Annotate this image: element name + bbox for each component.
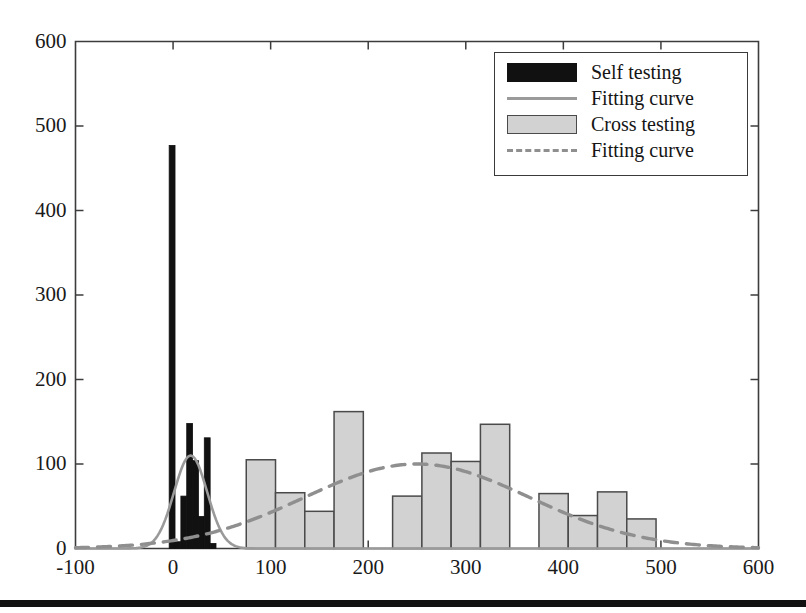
legend-label: Fitting curve bbox=[591, 86, 694, 110]
legend-label: Fitting curve bbox=[591, 138, 694, 162]
legend-label: Self testing bbox=[591, 60, 682, 84]
x-tick-label: 0 bbox=[133, 555, 213, 580]
dashed-line-icon bbox=[507, 149, 577, 152]
x-tick-label: -100 bbox=[36, 555, 116, 580]
y-tick-label: 400 bbox=[35, 198, 67, 223]
legend-key-dashed-line bbox=[503, 138, 581, 162]
y-tick-label: 300 bbox=[35, 282, 67, 307]
histogram-bar bbox=[598, 492, 627, 549]
x-tick-label: 600 bbox=[719, 555, 799, 580]
y-tick-label: 100 bbox=[35, 451, 67, 476]
histogram-bar bbox=[210, 543, 216, 548]
x-tick-label: 100 bbox=[231, 555, 311, 580]
histogram-bar bbox=[198, 516, 204, 548]
x-tick-label: 200 bbox=[328, 555, 408, 580]
histogram-figure: 6005004003002001000 -1000100200300400500… bbox=[0, 0, 806, 613]
legend-label: Cross testing bbox=[591, 112, 695, 136]
histogram-bar bbox=[181, 496, 187, 548]
footer-divider bbox=[0, 600, 806, 607]
y-tick-label: 200 bbox=[35, 367, 67, 392]
legend-key-solid-line bbox=[503, 86, 581, 110]
x-tick-label: 300 bbox=[426, 555, 506, 580]
histogram-bar bbox=[539, 494, 568, 549]
legend-item: Fitting curve bbox=[503, 137, 737, 163]
legend-item: Self testing bbox=[503, 59, 737, 85]
y-tick-label: 600 bbox=[35, 29, 67, 54]
histogram-bar bbox=[451, 461, 480, 548]
legend-item: Cross testing bbox=[503, 111, 737, 137]
histogram-bar bbox=[334, 412, 363, 549]
bar-series-cross-testing bbox=[246, 412, 656, 549]
x-tick-label: 400 bbox=[523, 555, 603, 580]
legend-item: Fitting curve bbox=[503, 85, 737, 111]
legend-key-black-swatch bbox=[503, 60, 581, 84]
gray-swatch-icon bbox=[507, 115, 577, 134]
x-tick-label: 500 bbox=[621, 555, 701, 580]
chart-legend: Self testingFitting curveCross testingFi… bbox=[494, 52, 748, 176]
black-swatch-icon bbox=[507, 63, 577, 82]
histogram-bar bbox=[187, 423, 193, 548]
y-tick-label: 500 bbox=[35, 113, 67, 138]
legend-key-gray-swatch bbox=[503, 112, 581, 136]
histogram-bar bbox=[305, 511, 334, 548]
solid-line-icon bbox=[507, 97, 577, 100]
histogram-bar bbox=[246, 460, 275, 549]
histogram-bar bbox=[175, 542, 181, 549]
histogram-bar bbox=[393, 496, 422, 548]
